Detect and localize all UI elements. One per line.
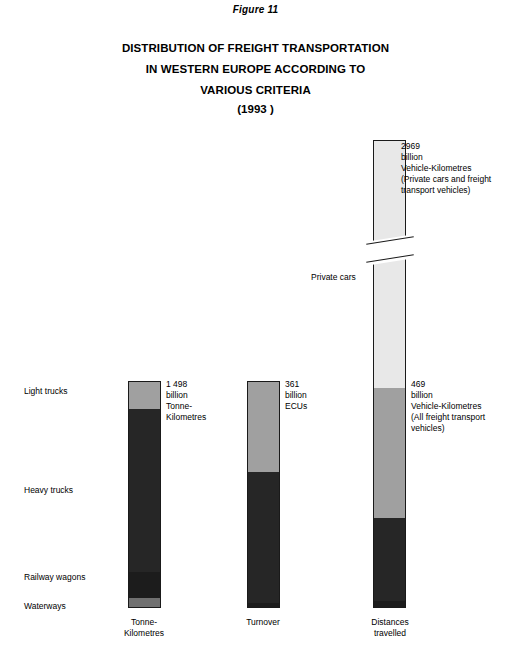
value-label-bar3-line-5: vehicles) xyxy=(411,423,485,434)
segment-heavy-trucks-bar1 xyxy=(128,409,161,572)
value-label-bar1-line-2: billion xyxy=(166,390,206,401)
value-label-bar1-line-1: 1 498 xyxy=(166,379,206,390)
axis-label-bar3-line-1: Distances xyxy=(340,617,440,628)
axis-label-bar2-line-1: Turnover xyxy=(213,617,313,628)
axis-label-bar1-line-2: Kilometres xyxy=(94,628,194,639)
value-label-bar2-line-3: ECUs xyxy=(285,401,307,412)
category-label-heavy-trucks: Heavy trucks xyxy=(24,485,73,496)
category-label-waterways: Waterways xyxy=(24,601,66,612)
value-label-bar3-top: 2969 billion Vehicle-Kilometres (Private… xyxy=(401,141,491,196)
segment-waterways-bar2 xyxy=(247,607,280,608)
value-label-bar3-top-line-2: billion xyxy=(401,152,491,163)
segment-heavy-trucks-bar3 xyxy=(373,518,406,601)
segment-waterways-bar1 xyxy=(128,598,161,608)
bar-distances-travelled xyxy=(373,140,406,608)
annotation-private-cars: Private cars xyxy=(311,272,356,283)
value-label-bar3-line-1: 469 xyxy=(411,379,485,390)
segment-private-cars-lowerbody-bar3 xyxy=(373,258,406,388)
value-label-bar3-top-line-4: (Private cars and freight xyxy=(401,174,491,185)
segment-railway-wagons-bar1 xyxy=(128,572,161,598)
segment-light-trucks-bar3 xyxy=(373,388,406,518)
category-label-railway-wagons: Railway wagons xyxy=(24,572,85,583)
value-label-bar1-line-3: Tonne- xyxy=(166,401,206,412)
value-label-bar3-top-line-5: transport vehicles) xyxy=(401,185,491,196)
value-label-bar3-top-line-3: Vehicle-Kilometres xyxy=(401,163,491,174)
value-label-bar1: 1 498 billion Tonne- Kilometres xyxy=(166,379,206,423)
axis-label-bar3: Distances travelled xyxy=(340,617,440,639)
axis-label-bar1: Tonne- Kilometres xyxy=(94,617,194,639)
value-label-bar3-line-2: billion xyxy=(411,390,485,401)
axis-label-bar1-line-1: Tonne- xyxy=(94,617,194,628)
value-label-bar2: 361 billion ECUs xyxy=(285,379,307,412)
axis-label-bar3-line-2: travelled xyxy=(340,628,440,639)
bar-turnover xyxy=(247,381,280,608)
value-label-bar3-line-4: (All freight transport xyxy=(411,412,485,423)
segment-waterways-bar3 xyxy=(373,607,406,608)
segment-heavy-trucks-bar2 xyxy=(247,472,280,603)
category-label-light-trucks: Light trucks xyxy=(24,386,67,397)
value-label-bar3: 469 billion Vehicle-Kilometres (All frei… xyxy=(411,379,485,434)
value-label-bar3-line-3: Vehicle-Kilometres xyxy=(411,401,485,412)
chart-plot-area: 1 498 billion Tonne- Kilometres Tonne- K… xyxy=(0,0,511,665)
value-label-bar3-top-line-1: 2969 xyxy=(401,141,491,152)
segment-light-trucks-bar1 xyxy=(128,381,161,409)
bar-tonne-kilometres xyxy=(128,381,161,608)
figure-page: Figure 11 DISTRIBUTION OF FREIGHT TRANSP… xyxy=(0,0,511,665)
value-label-bar1-line-4: Kilometres xyxy=(166,412,206,423)
axis-label-bar2: Turnover xyxy=(213,617,313,628)
segment-light-trucks-bar2 xyxy=(247,381,280,472)
value-label-bar2-line-1: 361 xyxy=(285,379,307,390)
value-label-bar2-line-2: billion xyxy=(285,390,307,401)
